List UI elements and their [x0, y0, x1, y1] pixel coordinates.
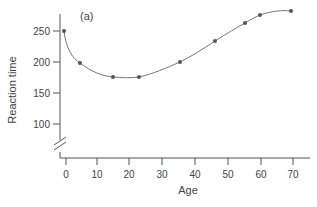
- y-tick-label: 200: [33, 57, 50, 68]
- x-tick-label: 40: [189, 169, 201, 180]
- x-axis-title: Age: [178, 184, 198, 196]
- x-tick-label: 10: [91, 169, 103, 180]
- y-tick-label: 100: [33, 119, 50, 130]
- y-tick-label: 250: [33, 26, 50, 37]
- y-ticks: 250 200 150 100: [33, 26, 60, 130]
- x-tick-label: 60: [255, 169, 267, 180]
- x-tick-label: 20: [123, 169, 135, 180]
- x-tick-label: 0: [63, 169, 69, 180]
- data-line: [64, 11, 291, 78]
- data-points: [62, 9, 293, 79]
- x-ticks: 0 10 20 30 40 50 60 70: [63, 158, 299, 180]
- panel-label: (a): [80, 10, 93, 22]
- chart: 250 200 150 100 0 10 20 30 40 50 60 70 A…: [0, 0, 317, 207]
- y-tick-label: 150: [33, 88, 50, 99]
- x-tick-label: 50: [222, 169, 234, 180]
- y-axis-title: Reaction time: [6, 56, 18, 123]
- x-tick-label: 30: [156, 169, 168, 180]
- x-tick-label: 70: [287, 169, 299, 180]
